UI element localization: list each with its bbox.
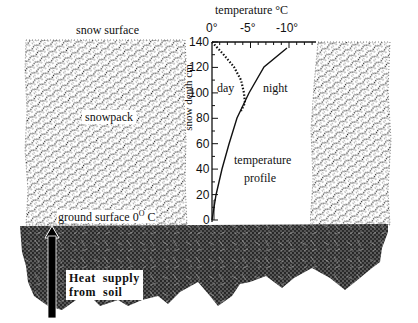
snow-surface-label: snow surface: [76, 24, 139, 36]
heat-supply-label: Heat supply from soil: [66, 270, 143, 300]
snowpack-right: [310, 42, 391, 225]
y-axis-title: snow depth cm: [183, 58, 194, 138]
heat-supply-line2: from soil: [69, 285, 140, 299]
day-label: day: [217, 82, 234, 94]
y-tick-40: 40: [196, 163, 209, 175]
snowpack-label: snowpack: [82, 110, 136, 124]
x-tick-5: -5°: [240, 22, 255, 34]
snowpack-left: [25, 40, 187, 225]
ground-surface-unit: C: [144, 210, 155, 224]
y-tick-140: 140: [189, 36, 209, 48]
x-tick-10: -10°: [276, 22, 298, 34]
diagram-canvas: [0, 0, 418, 323]
y-tick-60: 60: [196, 138, 209, 150]
heat-supply-line1: Heat supply: [69, 271, 140, 285]
ground-surface-text: ground surface 0: [58, 210, 139, 224]
temperature-profile-label-line1: temperature: [234, 154, 291, 166]
y-tick-80: 80: [196, 112, 209, 124]
y-tick-0: 0: [203, 214, 210, 226]
x-tick-0: 0°: [206, 22, 217, 34]
x-axis-title: temperature °C: [215, 3, 288, 17]
night-label: night: [263, 82, 288, 94]
chart-title: temperature °C: [215, 4, 288, 16]
ground-surface-label: ground surface 0O C: [57, 210, 156, 223]
y-tick-20: 20: [196, 189, 209, 201]
temperature-profile-label-line2: profile: [244, 172, 276, 184]
